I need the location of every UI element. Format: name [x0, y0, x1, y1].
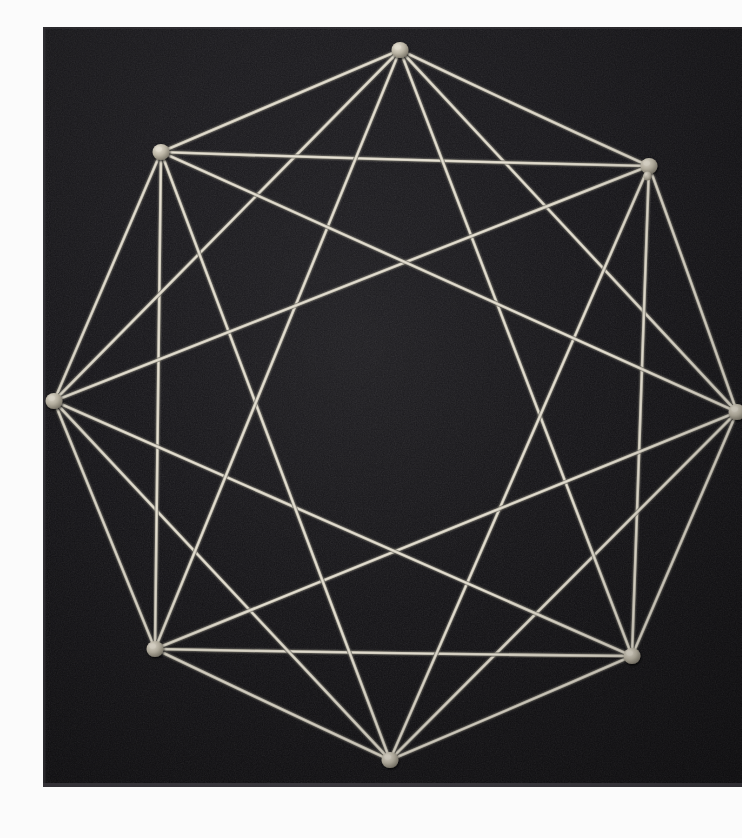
pin-head — [147, 641, 164, 657]
pin-head — [641, 158, 658, 174]
pin-specular — [626, 651, 633, 656]
photograph-stage: String-and-pin geometric graph model pal… — [0, 0, 742, 838]
pin-specular — [149, 644, 156, 649]
pin-lower-right[interactable] — [624, 648, 641, 664]
pin-specular — [48, 396, 55, 401]
string-graph-photo — [0, 0, 742, 838]
pin-top[interactable] — [392, 42, 409, 58]
pin-specular — [394, 45, 401, 50]
pin-head — [153, 144, 170, 160]
pin-head — [392, 42, 409, 58]
pin-bottom[interactable] — [382, 752, 399, 768]
pin-head — [46, 393, 63, 409]
pin-specular — [384, 755, 391, 760]
pin-upper-right[interactable] — [641, 158, 658, 174]
pin-specular — [643, 161, 650, 166]
pin-upper-left[interactable] — [153, 144, 170, 160]
pin-specular — [155, 147, 162, 152]
pin-nub — [643, 171, 651, 180]
board-left-edge — [43, 27, 46, 787]
board-top-edge — [43, 27, 742, 29]
board-group — [43, 27, 742, 787]
pin-head — [382, 752, 399, 768]
pin-lower-left[interactable] — [147, 641, 164, 657]
pin-head — [624, 648, 641, 664]
pin-specular — [731, 407, 738, 412]
pin-left[interactable] — [46, 393, 63, 409]
fabric-texture — [43, 27, 742, 787]
board-bottom-edge — [43, 783, 742, 787]
